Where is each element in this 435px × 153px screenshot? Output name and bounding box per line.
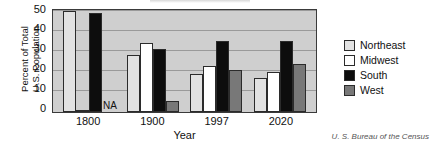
bar-group-2020 <box>248 10 312 112</box>
chart-legend: Northeast Midwest South West <box>344 40 406 96</box>
bar-1997-south[interactable] <box>216 41 229 112</box>
legend-swatch-northeast <box>344 40 355 51</box>
y-axis-tick-labels: 50 40 30 20 10 0 <box>24 0 46 120</box>
legend-item-west: West <box>344 85 406 96</box>
bar-1900-west[interactable] <box>166 101 179 112</box>
bar-2020-west[interactable] <box>293 64 306 112</box>
bar-1800-south[interactable] <box>89 13 102 112</box>
bar-1900-south[interactable] <box>153 49 166 112</box>
plot-area: NA <box>52 9 317 113</box>
legend-label-south: South <box>360 70 387 81</box>
legend-item-midwest: Midwest <box>344 55 406 66</box>
bar-1800-midwest[interactable] <box>76 110 89 112</box>
y-tick-0: 0 <box>26 103 46 114</box>
bar-1800-west-missing: NA <box>102 10 115 112</box>
bar-groups: NA <box>53 10 316 112</box>
bar-1900-midwest[interactable] <box>140 43 153 112</box>
bar-1900-northeast[interactable] <box>127 55 140 112</box>
bar-1997-northeast[interactable] <box>190 74 203 112</box>
clipped-title-edge <box>150 0 250 3</box>
x-tick-2020: 2020 <box>249 115 313 129</box>
x-tick-1900: 1900 <box>120 115 184 129</box>
legend-label-midwest: Midwest <box>360 55 399 66</box>
source-credit: U. S. Bureau of the Census <box>332 132 429 141</box>
y-tick-10: 10 <box>26 83 46 94</box>
chart-figure: Percent of Total U.S. Population 50 40 3… <box>0 0 435 153</box>
bar-group-1900 <box>121 10 185 112</box>
y-tick-20: 20 <box>26 63 46 74</box>
legend-swatch-midwest <box>344 55 355 66</box>
y-tick-40: 40 <box>26 23 46 34</box>
bar-group-1800: NA <box>57 10 121 112</box>
x-tick-1800: 1800 <box>56 115 120 129</box>
bar-group-1997 <box>185 10 249 112</box>
legend-item-northeast: Northeast <box>344 40 406 51</box>
legend-swatch-south <box>344 70 355 81</box>
x-axis-title: Year <box>52 129 317 141</box>
legend-swatch-west <box>344 85 355 96</box>
bar-1800-northeast[interactable] <box>63 11 76 112</box>
legend-label-northeast: Northeast <box>360 40 406 51</box>
x-axis-tick-labels: 1800 1900 1997 2020 <box>52 115 317 129</box>
y-tick-30: 30 <box>26 43 46 54</box>
bar-2020-northeast[interactable] <box>254 78 267 112</box>
bar-1997-west[interactable] <box>229 70 242 112</box>
na-annotation: NA <box>102 101 118 111</box>
legend-label-west: West <box>360 85 384 96</box>
x-tick-1997: 1997 <box>185 115 249 129</box>
bar-2020-midwest[interactable] <box>267 72 280 112</box>
legend-item-south: South <box>344 70 406 81</box>
bar-2020-south[interactable] <box>280 41 293 112</box>
bar-1997-midwest[interactable] <box>203 66 216 112</box>
y-tick-50: 50 <box>26 4 46 15</box>
